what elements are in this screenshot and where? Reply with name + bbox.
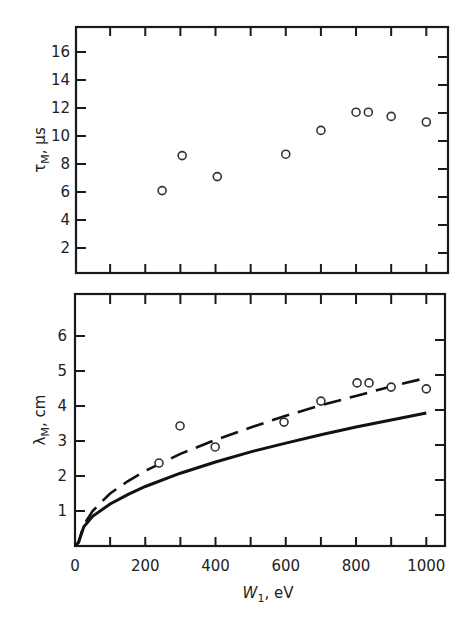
x-tick-label: 400 [201, 557, 230, 575]
solid-curve [75, 413, 426, 546]
y-tick-label: 6 [57, 327, 67, 345]
data-point-circle [317, 397, 325, 405]
y-label-unit: , μs [31, 127, 49, 154]
y-tick-label: 1 [57, 502, 67, 520]
top-panel-data-points [158, 108, 430, 194]
data-point-circle [155, 459, 163, 467]
y-tick-label: 4 [60, 211, 70, 229]
chart-figure: 246810121416 τM, μs 12345602004006008001… [0, 0, 470, 629]
data-point-circle [353, 379, 361, 387]
y-tick-label: 4 [57, 397, 67, 415]
data-point-circle [178, 152, 186, 160]
data-point-circle [158, 187, 166, 195]
x-tick-label: 0 [70, 557, 80, 575]
y-tick-label: 3 [57, 432, 67, 450]
y-label-subscript: M [39, 427, 52, 437]
y-tick-label: 16 [51, 43, 70, 61]
dashed-curve [75, 378, 426, 546]
data-point-circle [282, 150, 290, 158]
y-tick-label: 5 [57, 362, 67, 380]
y-tick-label: 8 [60, 155, 70, 173]
x-tick-label: 800 [342, 557, 371, 575]
y-label-symbol: λ [31, 436, 49, 445]
x-axis-label: W1, eV [243, 584, 295, 605]
data-point-circle [352, 108, 360, 116]
x-tick-label: 600 [271, 557, 300, 575]
top-y-axis-label: τM, μs [31, 127, 52, 173]
data-point-circle [176, 422, 184, 430]
data-point-circle [317, 126, 325, 134]
data-point-circle [364, 108, 372, 116]
data-point-circle [387, 112, 395, 120]
data-point-circle [387, 383, 395, 391]
y-tick-label: 2 [60, 239, 70, 257]
y-label-subscript: M [39, 154, 52, 164]
x-label-subscript: 1 [257, 592, 264, 605]
top-panel-frame [76, 27, 448, 273]
bottom-y-axis-label: λM, cm [31, 395, 52, 446]
y-tick-label: 2 [57, 467, 67, 485]
x-label-symbol: W [243, 584, 259, 602]
top-panel-y-tick-labels: 246810121416 [51, 43, 70, 257]
bottom-panel-curves [75, 378, 426, 546]
y-tick-label: 12 [51, 99, 70, 117]
data-point-circle [211, 443, 219, 451]
data-point-circle [422, 118, 430, 126]
y-label-unit: , cm [31, 395, 49, 427]
data-point-circle [365, 379, 373, 387]
y-tick-label: 10 [51, 127, 70, 145]
y-label-symbol: τ [31, 164, 49, 173]
x-tick-label: 1000 [407, 557, 445, 575]
y-tick-label: 14 [51, 71, 70, 89]
bottom-panel-data-points [155, 379, 430, 467]
data-point-circle [213, 173, 221, 181]
data-point-circle [422, 385, 430, 393]
x-label-unit: , eV [264, 584, 294, 602]
y-tick-label: 6 [60, 183, 70, 201]
x-tick-label: 200 [131, 557, 160, 575]
top-panel-ticks [76, 27, 448, 273]
data-point-circle [280, 418, 288, 426]
top-panel-tau: 246810121416 τM, μs [31, 27, 448, 273]
bottom-panel-lambda: 12345602004006008001000 λM, cm W1, eV [31, 294, 445, 605]
